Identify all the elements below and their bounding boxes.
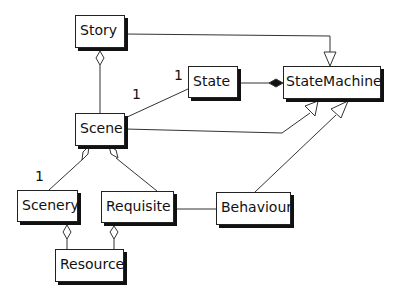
multiplicity-scene-state: 1: [132, 86, 141, 102]
class-scenery[interactable]: Scenery: [17, 190, 78, 222]
aggregation-diamond-icon: [82, 146, 89, 160]
generalization-arrow-icon: [331, 101, 348, 118]
multiplicity-state: 1: [174, 67, 183, 83]
class-state[interactable]: State: [188, 66, 238, 98]
class-state-machine[interactable]: StateMachine: [283, 66, 381, 99]
generalization-arrow-icon: [305, 101, 318, 116]
aggregation-diamond-icon: [96, 51, 104, 65]
multiplicity-scenery: 1: [35, 168, 44, 184]
generalization-arrow-icon: [324, 52, 336, 66]
class-scene[interactable]: Scene: [75, 113, 125, 146]
composition-diamond-icon: [269, 79, 283, 87]
class-requisite[interactable]: Requisite: [101, 191, 174, 223]
class-story[interactable]: Story: [75, 15, 125, 48]
aggregation-diamond-icon: [110, 226, 118, 239]
story-generalization-line: [125, 34, 330, 52]
class-resource[interactable]: Resource: [55, 249, 124, 282]
aggregation-diamond-icon: [109, 146, 118, 158]
class-behaviour[interactable]: Behaviour: [216, 192, 291, 225]
aggregation-diamond-icon: [63, 225, 71, 239]
